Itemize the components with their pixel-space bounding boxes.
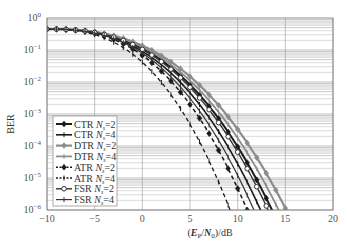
x-tick-label: −5 — [89, 213, 100, 224]
x-tick-label: 20 — [328, 213, 338, 224]
x-tick-label: 10 — [233, 213, 243, 224]
x-axis-label: (EP/N0)/dB — [187, 227, 233, 240]
x-axis-ticks: −10−505101520 — [39, 213, 338, 224]
x-tick-label: 15 — [280, 213, 290, 224]
x-tick-label: 0 — [140, 213, 145, 224]
y-tick-label: 10−2 — [24, 75, 42, 87]
y-tick-label: 10−3 — [24, 107, 42, 119]
y-axis-label: BER — [5, 114, 16, 134]
x-tick-label: 5 — [188, 213, 193, 224]
y-tick-label: 100 — [28, 11, 42, 23]
legend: CTR Ns=2CTR Ns=4DTR Ns=2DTR Ns=4ATR Ns=2… — [53, 116, 117, 206]
y-tick-label: 10−4 — [24, 139, 42, 151]
y-axis-ticks: 10010−110−210−310−410−510−6 — [24, 11, 42, 215]
y-tick-label: 10−1 — [24, 43, 42, 55]
legend-label: FSR Ns=4 — [74, 194, 114, 206]
x-tick-label: −10 — [39, 213, 55, 224]
y-tick-label: 10−5 — [24, 171, 42, 183]
ber-chart: −10−505101520 10010−110−210−310−410−510−… — [0, 0, 347, 244]
